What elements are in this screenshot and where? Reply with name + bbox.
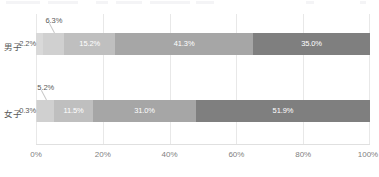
bar-segment-male-5[interactable]: 35.0%	[253, 33, 370, 55]
bar-segment-male-2[interactable]: 6.3%	[43, 33, 64, 55]
stacked-bar-chart: 2.2% 6.3% 15.2% 41.3% 35.0% 0.3% 5	[0, 0, 379, 177]
bar-label-male-5: 35.0%	[301, 40, 322, 48]
bar-label-female-5: 51.9%	[273, 107, 294, 115]
bar-female[interactable]: 0.3% 5.2% 11.5% 31.0% 51.9%	[36, 100, 370, 122]
bar-label-male-4: 41.3%	[174, 40, 195, 48]
bar-segment-female-2[interactable]: 5.2%	[37, 100, 54, 122]
bar-segment-female-5[interactable]: 51.9%	[196, 100, 369, 122]
x-tick-40: 40%	[162, 150, 178, 159]
bar-segment-male-4[interactable]: 41.3%	[115, 33, 253, 55]
bar-male[interactable]: 2.2% 6.3% 15.2% 41.3% 35.0%	[36, 33, 370, 55]
bar-label-male-3: 15.2%	[79, 40, 100, 48]
bar-segment-female-4[interactable]: 31.0%	[93, 100, 197, 122]
x-tick-80: 80%	[295, 150, 311, 159]
callout-leader-male	[49, 23, 55, 33]
bar-segment-female-3[interactable]: 11.5%	[54, 100, 92, 122]
x-tick-0: 0%	[30, 150, 42, 159]
category-label-female: 女子	[4, 107, 22, 119]
x-tick-20: 20%	[95, 150, 111, 159]
bar-segment-male-1[interactable]: 2.2%	[36, 33, 43, 55]
category-label-male: 男子	[4, 40, 22, 52]
bar-label-female-4: 31.0%	[134, 107, 155, 115]
callout-leader-female	[41, 90, 47, 100]
bar-label-male-2: 6.3%	[46, 17, 63, 25]
truncated-header-strip	[0, 0, 379, 8]
x-tick-60: 60%	[228, 150, 244, 159]
x-axis-line	[36, 144, 370, 145]
plot-area: 2.2% 6.3% 15.2% 41.3% 35.0% 0.3% 5	[36, 14, 370, 145]
x-tick-100: 100%	[358, 150, 378, 159]
bar-label-female-2: 5.2%	[37, 84, 54, 92]
bar-label-female-3: 11.5%	[63, 107, 83, 115]
bar-segment-male-3[interactable]: 15.2%	[64, 33, 115, 55]
